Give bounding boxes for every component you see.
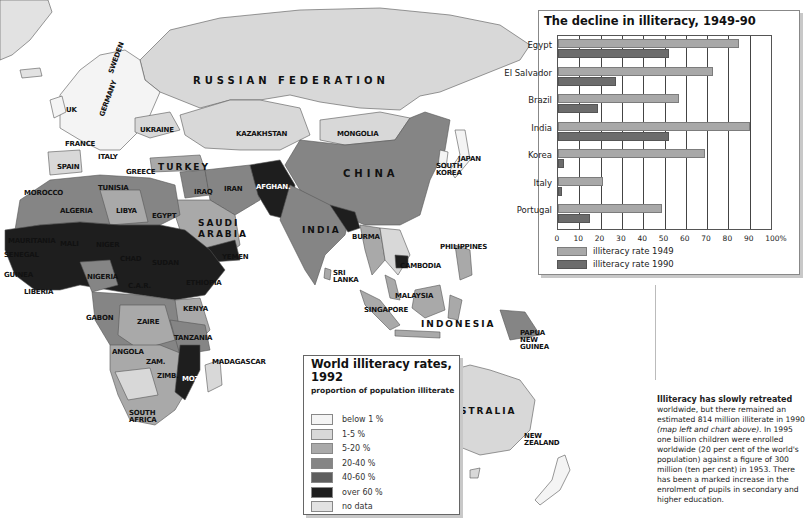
map-label-c-a-r: C.A.R. xyxy=(128,282,151,290)
legend-label: below 1 % xyxy=(342,415,383,424)
legend-swatch xyxy=(311,472,333,483)
bar-el-salvador-1990 xyxy=(558,77,616,86)
chart-gridline xyxy=(686,36,687,229)
category-label: El Salvador xyxy=(480,68,552,78)
legend-label: 20-40 % xyxy=(342,459,375,468)
bar-brazil-1949 xyxy=(558,94,679,103)
map-label-russian-federation: RUSSIAN FEDERATION xyxy=(193,75,389,86)
map-label-yemen: YEMEN xyxy=(222,253,248,261)
map-label-liberia: LIBERIA xyxy=(24,288,53,296)
map-label-malaysia: MALAYSIA xyxy=(395,292,433,300)
map-label-zimb: ZIMB. xyxy=(157,372,179,380)
map-label-sri-lanka: SRI LANKA xyxy=(333,270,373,284)
bar-korea-1949 xyxy=(558,149,705,158)
category-label: India xyxy=(480,123,552,133)
map-label-zam: ZAM. xyxy=(146,358,165,366)
legend-swatch xyxy=(311,501,333,512)
map-label-uk: UK xyxy=(66,106,77,114)
chart-title: The decline in illiteracy, 1949-90 xyxy=(544,14,756,28)
x-tick-label: 100% xyxy=(765,234,786,243)
map-label-mali: MALI xyxy=(60,240,79,248)
map-label-ethiopia: ETHIOPIA xyxy=(186,279,222,287)
legend-swatch-1990 xyxy=(557,260,587,269)
map-label-saudi-arabia: SAUDI ARABIA xyxy=(198,218,256,240)
legend-row: 1-5 % xyxy=(311,429,365,440)
map-label-chad: CHAD xyxy=(120,255,141,263)
map-label-egypt: EGYPT xyxy=(152,212,176,220)
chart-legend-1949: illiteracy rate 1949 xyxy=(557,246,674,256)
chart-legend-1990: illiteracy rate 1990 xyxy=(557,259,674,269)
legend-swatch xyxy=(311,414,333,425)
bar-egypt-1949 xyxy=(558,39,739,48)
caption-body-2: In 1995 one billion children were enroll… xyxy=(657,425,799,504)
map-label-moz: MOZ. xyxy=(182,375,202,383)
sulawesi-region xyxy=(448,295,462,320)
x-tick-label: 50 xyxy=(659,234,669,243)
legend-label: no data xyxy=(342,502,373,511)
map-label-kenya: KENYA xyxy=(183,305,208,313)
map-label-guinea: GUINEA xyxy=(4,271,33,279)
new-zealand-region xyxy=(535,455,570,505)
legend-label: 40-60 % xyxy=(342,473,375,482)
map-label-china: CHINA xyxy=(343,168,399,179)
x-tick-label: 30 xyxy=(616,234,626,243)
sri-lanka-region xyxy=(324,268,331,280)
bar-portugal-1990 xyxy=(558,214,590,223)
map-label-nigeria: NIGERIA xyxy=(87,273,118,281)
chart-gridline xyxy=(728,36,729,229)
legend-label-1990: illiteracy rate 1990 xyxy=(593,259,674,269)
map-label-iran: IRAN xyxy=(224,185,242,193)
map-label-angola: ANGOLA xyxy=(112,348,144,356)
category-label: Portugal xyxy=(480,205,552,215)
x-tick-label: 20 xyxy=(595,234,605,243)
map-label-zaire: ZAIRE xyxy=(137,318,159,326)
map-label-madagascar: MADAGASCAR xyxy=(212,358,266,366)
tasmania-region xyxy=(470,468,480,478)
map-label-kazakhstan: KAZAKHSTAN xyxy=(236,130,287,138)
map-label-papua-new-guinea: PAPUA NEW GUINEA xyxy=(520,330,560,351)
map-label-tunisia: TUNISIA xyxy=(98,184,129,192)
legend-swatch xyxy=(311,458,333,469)
map-label-france: FRANCE xyxy=(65,140,95,148)
map-label-greece: GREECE xyxy=(126,168,155,176)
map-label-mauritania: MAURITANIA xyxy=(8,237,55,245)
legend-row: no data xyxy=(311,501,373,512)
x-tick-label: 60 xyxy=(680,234,690,243)
map-label-india: INDIA xyxy=(302,225,341,235)
bar-india-1949 xyxy=(558,122,750,131)
x-tick-label: 10 xyxy=(574,234,584,243)
legend-row: 5-20 % xyxy=(311,443,370,454)
map-label-spain: SPAIN xyxy=(57,163,79,171)
category-label: Egypt xyxy=(480,40,552,50)
sidebar-caption: Illiteracy has slowly retreated worldwid… xyxy=(657,395,809,505)
map-legend-subtitle: proportion of population illiterate xyxy=(311,387,461,395)
map-label-singapore: SINGAPORE xyxy=(364,306,408,314)
bar-italy-1990 xyxy=(558,187,562,196)
x-tick-label: 40 xyxy=(637,234,647,243)
divider-line xyxy=(655,285,656,380)
map-label-iraq: IRAQ xyxy=(194,188,213,196)
legend-label: over 60 % xyxy=(342,488,383,497)
legend-row: over 60 % xyxy=(311,487,383,498)
legend-row: 20-40 % xyxy=(311,458,375,469)
map-label-libya: LIBYA xyxy=(116,207,137,215)
map-label-italy: ITALY xyxy=(98,153,118,161)
map-label-sudan: SUDAN xyxy=(152,259,179,267)
map-label-niger: NIGER xyxy=(96,241,119,249)
map-label-tanzania: TANZANIA xyxy=(174,334,212,342)
bar-egypt-1990 xyxy=(558,49,669,58)
russia-region xyxy=(140,8,530,110)
x-tick-label: 70 xyxy=(701,234,711,243)
bar-india-1990 xyxy=(558,132,669,141)
borneo-region xyxy=(412,285,445,318)
legend-label: 1-5 % xyxy=(342,430,365,439)
chart-gridline xyxy=(707,36,708,229)
x-tick-label: 80 xyxy=(723,234,733,243)
category-label: Italy xyxy=(480,178,552,188)
bar-brazil-1990 xyxy=(558,104,598,113)
caption-lead: Illiteracy has slowly retreated xyxy=(657,395,792,404)
bar-el-salvador-1949 xyxy=(558,67,713,76)
chart-plot-area xyxy=(557,35,772,230)
map-label-gabon: GABON xyxy=(86,314,113,322)
legend-swatch-1949 xyxy=(557,247,587,256)
